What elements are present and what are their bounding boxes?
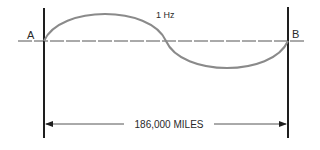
arrow-left-icon xyxy=(45,121,53,127)
point-b-label: B xyxy=(292,28,299,40)
arrow-right-icon xyxy=(279,121,287,127)
point-a-label: A xyxy=(27,29,35,41)
frequency-label: 1 Hz xyxy=(156,10,175,20)
sine-wave-diagram: A B 1 Hz 186,000 MILES xyxy=(0,0,320,150)
distance-label: 186,000 MILES xyxy=(135,119,204,130)
